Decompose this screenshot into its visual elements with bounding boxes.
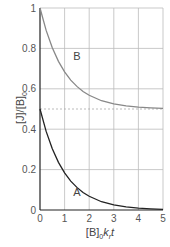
y-tick-label: 0.2 <box>22 164 36 175</box>
series-line-B <box>40 8 163 108</box>
x-tick-label: 0 <box>37 213 43 224</box>
x-tick-label: 1 <box>62 213 68 224</box>
x-tick-labels: 012345 <box>37 213 166 224</box>
x-tick-label: 4 <box>136 213 142 224</box>
y-axis-label: [J]/[B]0 <box>14 92 28 124</box>
x-axis-label: [B]0krt <box>86 226 115 240</box>
chart: 012345 00.20.40.60.81 AB [B]0krt [J]/[B]… <box>0 0 170 247</box>
curve-label-A: A <box>73 186 81 198</box>
curve-labels: AB <box>73 50 81 197</box>
curve-label-B: B <box>73 50 80 62</box>
x-tick-label: 2 <box>86 213 92 224</box>
y-tick-label: 1 <box>30 3 36 14</box>
y-tick-label: 0 <box>30 205 36 216</box>
series-line-A <box>40 109 163 209</box>
y-tick-label: 0.8 <box>22 43 36 54</box>
x-tick-label: 5 <box>160 213 166 224</box>
x-tick-label: 3 <box>111 213 117 224</box>
y-tick-label: 0.4 <box>22 124 36 135</box>
